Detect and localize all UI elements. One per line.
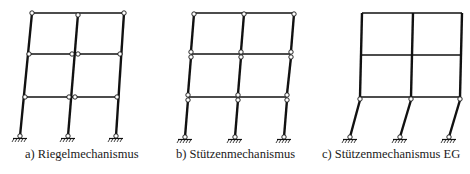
frame-c-ground-floor-mechanism xyxy=(342,13,462,143)
support-icon xyxy=(342,140,357,144)
frame-a-beam-mechanism xyxy=(12,11,126,142)
caption-b: b) Stützenmechanismus xyxy=(176,147,295,162)
support-icon xyxy=(392,140,407,144)
column xyxy=(68,14,78,136)
column xyxy=(116,13,124,136)
caption-c: c) Stützenmechanismus EG xyxy=(322,147,460,162)
support-icon xyxy=(227,140,242,144)
support-icon xyxy=(276,140,291,144)
frame-b-column-mechanism xyxy=(177,12,296,143)
caption-a: a) Riegelmechanismus xyxy=(25,147,139,162)
support-icon xyxy=(60,139,75,143)
support-icon xyxy=(441,140,456,144)
column xyxy=(20,13,32,136)
support-icon xyxy=(177,140,192,144)
support-icon xyxy=(108,139,123,143)
support-icon xyxy=(12,139,27,143)
